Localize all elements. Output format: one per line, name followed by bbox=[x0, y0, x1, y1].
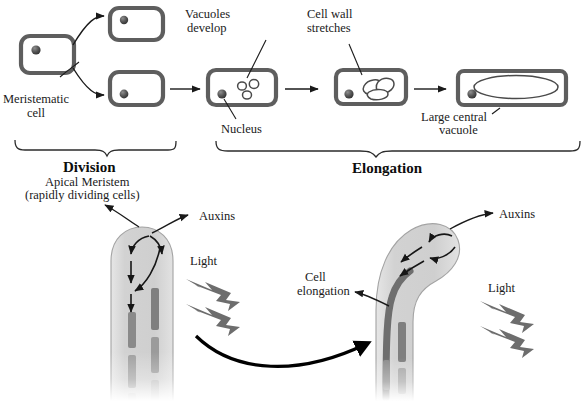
leader-large-central-vacuole bbox=[492, 108, 500, 114]
shoot-fade bbox=[372, 358, 420, 401]
label-large-central-vacuole-line1: Large central bbox=[421, 110, 488, 124]
vacuole-glyph bbox=[367, 90, 388, 100]
vacuole-glyph bbox=[243, 91, 252, 99]
label-stage-elongation: Elongation bbox=[352, 160, 423, 176]
nucleus-glyph bbox=[217, 89, 226, 98]
cell-bar bbox=[128, 312, 136, 348]
large-central-vacuole-glyph bbox=[474, 76, 558, 99]
light-bolt-icon bbox=[186, 279, 240, 311]
label-apical-meristem-line2: (rapidly dividing cells) bbox=[25, 188, 140, 202]
nucleus-glyph bbox=[31, 45, 40, 54]
label-vacuoles-develop-line2: develop bbox=[187, 21, 227, 35]
brace-division bbox=[15, 140, 176, 156]
label-apical-meristem-line1: Apical Meristem bbox=[45, 175, 130, 189]
label-auxins-right: Auxins bbox=[499, 207, 535, 221]
figure-canvas: Meristematic cell Vacuoles develop Nucle… bbox=[0, 0, 586, 401]
nucleus-glyph bbox=[120, 16, 128, 24]
label-cell-wall-stretches-line2: stretches bbox=[307, 21, 351, 35]
division-arrow-down bbox=[73, 68, 104, 95]
label-auxins-left: Auxins bbox=[199, 209, 235, 223]
diagram-svg: Meristematic cell Vacuoles develop Nucle… bbox=[0, 0, 586, 401]
brace-elongation bbox=[216, 141, 580, 157]
daughter-cell-upper bbox=[110, 8, 163, 40]
vacuole-glyph bbox=[238, 82, 247, 90]
cell-bar bbox=[398, 322, 406, 362]
nucleus-glyph bbox=[344, 89, 353, 98]
label-cell-elongation-line1: Cell bbox=[305, 270, 326, 284]
light-bolt-group-right bbox=[480, 301, 534, 358]
arrow-apical-meristem bbox=[105, 205, 139, 227]
vacuolating-cell bbox=[208, 70, 276, 105]
arrow-auxins-left bbox=[152, 215, 188, 233]
light-bolt-icon bbox=[186, 304, 240, 336]
daughter-cell-lower bbox=[110, 72, 163, 105]
light-bolt-icon bbox=[480, 301, 534, 333]
vacuole-glyph bbox=[249, 80, 258, 89]
transition-arrow bbox=[196, 336, 366, 366]
meristematic-cell bbox=[21, 36, 74, 73]
label-nucleus: Nucleus bbox=[221, 122, 262, 136]
label-meristematic-cell-line2: cell bbox=[27, 106, 46, 120]
shoot-fade bbox=[108, 352, 178, 401]
division-arrow-up bbox=[73, 16, 104, 45]
stretching-cell bbox=[336, 70, 406, 104]
label-large-central-vacuole-line2: vacuole bbox=[439, 123, 478, 137]
label-cell-elongation-line2: elongation bbox=[297, 284, 351, 298]
light-bolt-icon bbox=[480, 326, 534, 358]
label-stage-division: Division bbox=[63, 159, 116, 175]
bent-shoot bbox=[372, 224, 460, 401]
arrow-auxins-right bbox=[450, 213, 493, 229]
straight-shoot bbox=[108, 227, 178, 401]
label-light-right: Light bbox=[488, 281, 516, 295]
mature-vacuolated-cell bbox=[458, 71, 566, 105]
label-meristematic-cell-line1: Meristematic bbox=[3, 92, 69, 106]
light-bolt-group-left bbox=[186, 279, 240, 336]
label-vacuoles-develop-line1: Vacuoles bbox=[185, 7, 230, 21]
nucleus-glyph bbox=[120, 90, 129, 99]
label-cell-wall-stretches-line1: Cell wall bbox=[307, 7, 353, 21]
label-light-left: Light bbox=[190, 254, 218, 268]
cell-bar bbox=[151, 288, 159, 330]
